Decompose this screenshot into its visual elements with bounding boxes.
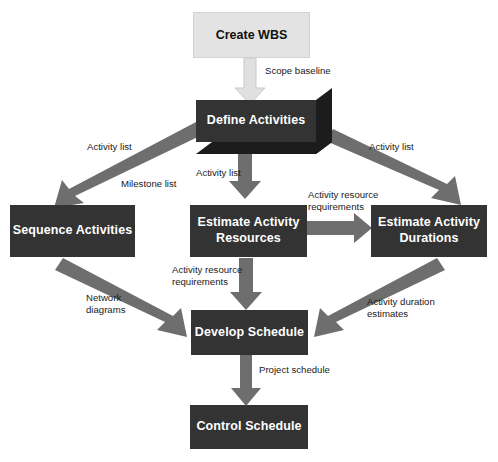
- node-develop-schedule[interactable]: Develop Schedule: [191, 310, 308, 355]
- edge-label-activity-list-right: Activity list: [369, 141, 414, 153]
- node-control-schedule[interactable]: Control Schedule: [190, 405, 308, 449]
- node-estimate-activity-resources-label-line2: Resources: [216, 231, 281, 247]
- node-estimate-activity-durations-label-line2: Durations: [399, 231, 458, 247]
- edge-label-activity-duration-estimates: Activity duration estimates: [367, 296, 435, 319]
- node-estimate-activity-durations[interactable]: Estimate Activity Durations: [371, 205, 487, 257]
- edge-label-project-schedule: Project schedule: [259, 364, 330, 376]
- connector-define-to-sequence: [54, 122, 204, 208]
- node-sequence-activities[interactable]: Sequence Activities: [10, 205, 135, 257]
- edge-label-scope-baseline: Scope baseline: [265, 65, 331, 77]
- edge-label-network-diagrams: Network diagrams: [86, 292, 125, 315]
- edge-label-milestone-list: Milestone list: [121, 178, 176, 190]
- node-create-wbs-label: Create WBS: [216, 28, 288, 42]
- node-estimate-activity-resources-label-line1: Estimate Activity: [198, 215, 300, 231]
- node-define-activities-label: Define Activities: [207, 113, 306, 129]
- node-create-wbs[interactable]: Create WBS: [193, 12, 310, 58]
- node-define-activities[interactable]: Define Activities: [196, 100, 316, 142]
- edge-label-activity-list-center: Activity list: [196, 167, 241, 179]
- node-estimate-activity-resources[interactable]: Estimate Activity Resources: [190, 205, 307, 257]
- edge-label-activity-resource-requirements-top: Activity resource requirements: [308, 189, 378, 212]
- connector-develop-to-control: [231, 355, 261, 406]
- node-develop-schedule-label: Develop Schedule: [195, 325, 304, 341]
- node-estimate-activity-durations-label-line1: Estimate Activity: [378, 215, 480, 231]
- node-control-schedule-label: Control Schedule: [196, 419, 301, 435]
- connector-wbs-to-define: [235, 58, 265, 104]
- edge-label-activity-resource-requirements-mid: Activity resource requirements: [172, 264, 242, 287]
- edge-label-activity-list-left: Activity list: [87, 141, 132, 153]
- connector-resources-to-durations: [306, 213, 372, 243]
- node-sequence-activities-label: Sequence Activities: [13, 223, 133, 239]
- process-flow-diagram: Create WBS Define Activities Sequence Ac…: [0, 0, 498, 462]
